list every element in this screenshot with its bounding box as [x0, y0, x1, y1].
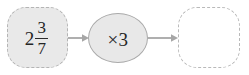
- arrow-right-icon-1: [68, 31, 90, 45]
- function-machine-diagram: 2 3 7 ×3: [0, 0, 249, 75]
- operation-oval: ×3: [88, 13, 148, 63]
- operation-label-times-3: ×3: [108, 30, 129, 49]
- whole-number-part: 2: [25, 29, 35, 48]
- arrow-right-icon-2: [148, 31, 179, 45]
- answer-blank-box[interactable]: [178, 7, 240, 68]
- fraction-denominator: 7: [37, 39, 48, 57]
- fraction-numerator: 3: [37, 19, 48, 37]
- fraction-part: 3 7: [35, 19, 48, 57]
- input-value-box: 2 3 7: [7, 7, 68, 68]
- mixed-number-2-and-3-sevenths: 2 3 7: [25, 19, 49, 57]
